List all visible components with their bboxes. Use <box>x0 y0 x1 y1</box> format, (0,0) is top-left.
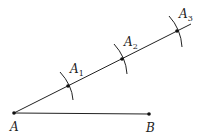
point-a3 <box>175 29 179 33</box>
point-a2 <box>120 57 124 61</box>
segment-ab <box>14 113 149 114</box>
label-b: B <box>145 121 155 135</box>
ray-a <box>14 24 191 113</box>
label-a3: A3 <box>178 7 193 23</box>
point-a1 <box>66 84 70 88</box>
label-a: A <box>9 120 19 134</box>
point-a <box>12 111 16 115</box>
label-a1: A1 <box>69 62 84 78</box>
point-b <box>147 112 151 116</box>
label-a2: A2 <box>123 35 138 51</box>
geometry-diagram: A B A1 A2 A3 <box>0 0 206 139</box>
